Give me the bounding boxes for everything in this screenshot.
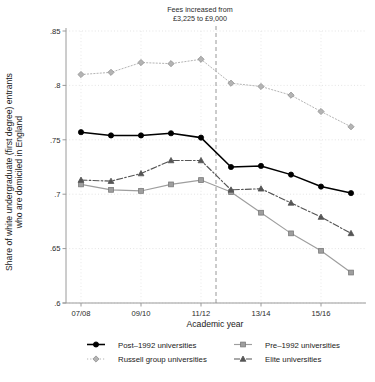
y-tick-label: .7 xyxy=(54,190,60,199)
legend-label: Russell group universities xyxy=(118,355,207,364)
data-point-square xyxy=(241,342,246,347)
x-axis-title: Academic year xyxy=(187,319,244,329)
data-point-circle xyxy=(168,131,173,136)
data-point-circle xyxy=(198,135,203,140)
data-point-circle xyxy=(93,342,98,347)
x-tick-label: 13/14 xyxy=(251,309,270,318)
y-tick-label: .8 xyxy=(54,81,60,90)
y-axis-title-line-2: who are domiciled in England xyxy=(14,116,24,229)
data-point-circle xyxy=(228,164,233,169)
data-point-square xyxy=(259,210,264,215)
data-point-circle xyxy=(108,133,113,138)
data-point-circle xyxy=(78,130,83,135)
y-tick-label: .85 xyxy=(50,27,61,36)
fee-increase-annotation: Fees increased from £3,225 to £9,000 xyxy=(167,5,233,23)
annotation-line-2: £3,225 to £9,000 xyxy=(173,14,227,23)
y-axis-title-line-1: Share of white undergraduate (first degr… xyxy=(4,73,14,271)
y-tick-label: .65 xyxy=(50,244,61,253)
data-point-square xyxy=(349,270,354,275)
data-point-circle xyxy=(258,163,263,168)
data-point-square xyxy=(109,187,114,192)
legend-label: Post–1992 universities xyxy=(118,341,197,350)
data-point-square xyxy=(139,189,144,194)
x-tick-label: 11/12 xyxy=(192,309,210,318)
y-tick-label: .6 xyxy=(54,299,60,308)
data-point-square xyxy=(199,178,204,183)
legend-label: Elite universities xyxy=(265,355,321,364)
data-point-circle xyxy=(138,133,143,138)
data-point-square xyxy=(319,248,324,253)
legend-label: Pre–1992 universities xyxy=(265,341,340,350)
y-tick-label: .75 xyxy=(50,136,61,145)
data-point-circle xyxy=(288,172,293,177)
x-tick-label: 15/16 xyxy=(311,309,330,318)
annotation-line-1: Fees increased from xyxy=(167,5,233,14)
x-tick-label: 09/10 xyxy=(131,309,150,318)
data-point-square xyxy=(169,182,174,187)
data-point-square xyxy=(289,231,294,236)
data-point-circle xyxy=(318,184,323,189)
chart-figure: Fees increased from £3,225 to £9,000 Sha… xyxy=(0,0,375,382)
data-point-circle xyxy=(348,191,353,196)
x-tick-label: 07/08 xyxy=(71,309,90,318)
